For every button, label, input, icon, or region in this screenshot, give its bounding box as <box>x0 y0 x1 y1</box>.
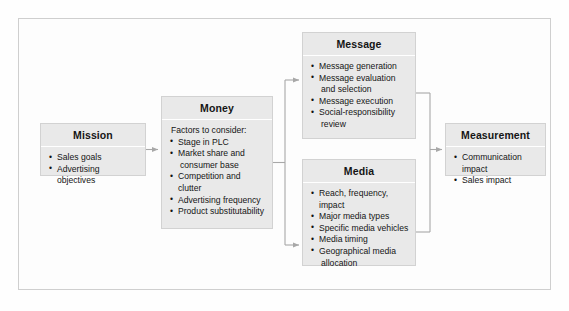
node-money-list: Stage in PLC Market share and consumer b… <box>170 137 266 218</box>
list-item-text-cont: review <box>319 119 409 131</box>
node-money-title: Money <box>162 97 272 120</box>
list-item: Product substitutability <box>170 206 266 218</box>
list-item-text-cont: allocation <box>319 258 409 270</box>
list-item-text: Advertising objectives <box>57 164 100 186</box>
list-item-text: Message evaluation <box>319 73 395 83</box>
list-item-text: Reach, frequency, impact <box>319 188 388 210</box>
list-item: Communication impact <box>454 152 539 175</box>
list-item-text: Sales goals <box>57 152 101 162</box>
list-item: Message generation <box>311 61 409 73</box>
list-item: Social-responsibility review <box>311 107 409 130</box>
list-item: Competition and clutter <box>170 171 266 194</box>
list-item-text: Message generation <box>319 61 397 71</box>
list-item-text-cont: and selection <box>319 84 409 96</box>
list-item-text: Product substitutability <box>178 206 264 216</box>
list-item: Message evaluation and selection <box>311 73 409 96</box>
list-item-text: Communication impact <box>462 152 522 174</box>
node-measurement-body: Communication impact Sales impact <box>446 147 545 193</box>
list-item: Advertising objectives <box>49 164 139 187</box>
node-message[interactable]: Message Message generation Message evalu… <box>302 32 416 139</box>
list-item-text: Stage in PLC <box>178 137 229 147</box>
node-mission-list: Sales goals Advertising objectives <box>49 152 139 187</box>
list-item: Specific media vehicles <box>311 223 409 235</box>
edge-money-branch <box>273 80 299 245</box>
edge-merge-to-measurement <box>416 93 442 232</box>
node-mission-title: Mission <box>41 124 145 147</box>
list-item-text: Social-responsibility <box>319 107 395 117</box>
list-item-text: Competition and clutter <box>178 171 241 193</box>
node-mission[interactable]: Mission Sales goals Advertising objectiv… <box>40 123 146 176</box>
list-item: Market share and consumer base <box>170 148 266 171</box>
list-item-text: Sales impact <box>462 175 511 185</box>
diagram-canvas: Mission Sales goals Advertising objectiv… <box>0 0 569 311</box>
list-item: Reach, frequency, impact <box>311 188 409 211</box>
node-mission-body: Sales goals Advertising objectives <box>41 147 145 193</box>
node-media[interactable]: Media Reach, frequency, impact Major med… <box>302 159 416 266</box>
list-item-text-cont: consumer base <box>178 160 266 172</box>
node-money-body: Factors to consider: Stage in PLC Market… <box>162 120 272 224</box>
list-item-text: Advertising frequency <box>178 195 261 205</box>
node-message-title: Message <box>303 33 415 56</box>
node-media-title: Media <box>303 160 415 183</box>
list-item: Stage in PLC <box>170 137 266 149</box>
list-item: Geographical media allocation <box>311 246 409 269</box>
list-item-text: Message execution <box>319 96 393 106</box>
list-item: Sales goals <box>49 152 139 164</box>
node-media-body: Reach, frequency, impact Major media typ… <box>303 183 415 275</box>
node-measurement-title: Measurement <box>446 124 545 147</box>
node-money-lead: Factors to consider: <box>171 125 266 137</box>
list-item-text: Geographical media <box>319 246 396 256</box>
list-item-text: Market share and <box>178 148 245 158</box>
list-item: Sales impact <box>454 175 539 187</box>
list-item-text: Specific media vehicles <box>319 223 408 233</box>
list-item: Media timing <box>311 234 409 246</box>
list-item-text: Major media types <box>319 211 389 221</box>
list-item: Advertising frequency <box>170 195 266 207</box>
node-media-list: Reach, frequency, impact Major media typ… <box>311 188 409 269</box>
list-item-text: Media timing <box>319 234 368 244</box>
node-message-list: Message generation Message evaluation an… <box>311 61 409 131</box>
node-measurement[interactable]: Measurement Communication impact Sales i… <box>445 123 546 176</box>
list-item: Message execution <box>311 96 409 108</box>
node-measurement-list: Communication impact Sales impact <box>454 152 539 187</box>
list-item: Major media types <box>311 211 409 223</box>
node-money[interactable]: Money Factors to consider: Stage in PLC … <box>161 96 273 229</box>
node-message-body: Message generation Message evaluation an… <box>303 56 415 137</box>
